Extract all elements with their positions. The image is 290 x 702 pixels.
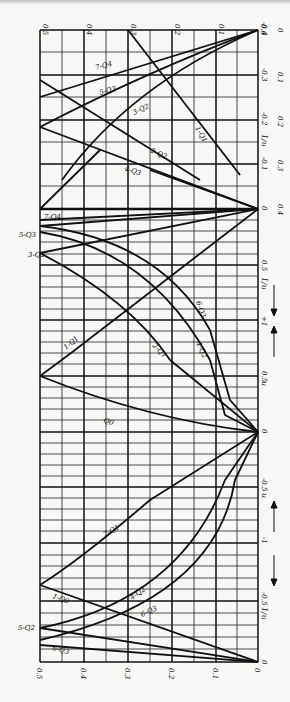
svg-text:5-Q3: 5-Q3 [19, 231, 37, 239]
curve-fan-2 [40, 150, 100, 209]
curve-1-Q1-mid [40, 209, 258, 376]
svg-text:2-Q1: 2-Q1 [101, 523, 121, 539]
curve-2-Q2-top [40, 80, 200, 180]
svg-text:7-Q4: 7-Q4 [44, 213, 61, 221]
curve-2-Q1-mid [40, 253, 170, 360]
svg-text:0.1: 0.1 [276, 72, 284, 83]
rotated-line-chart: 7-Q4 5-Q3 3-Q2 1-Q1 2-Q2 4-Q3 7-Q4 5-Q3 … [0, 0, 290, 702]
curve-2-Q1-cont [170, 360, 258, 432]
curves-lower [40, 432, 258, 662]
right-tick-labels: -0.4 -0.3 -0.2 -0.1 0 0.5 +1 0.5 0 -0.5 … [260, 22, 268, 665]
svg-text:0.2: 0.2 [167, 668, 175, 680]
svg-text:5-Q3: 5-Q3 [98, 85, 117, 97]
svg-text:-0.2: -0.2 [260, 112, 268, 126]
svg-text:u: u [260, 493, 269, 498]
svg-text:2-Q2: 2-Q2 [148, 146, 168, 161]
svg-text:7-Q4: 7-Q4 [94, 60, 113, 72]
svg-text:6-Q3: 6-Q3 [51, 644, 70, 656]
svg-text:2-Q1: 2-Q1 [150, 341, 168, 359]
svg-text:Q0: Q0 [102, 416, 115, 427]
svg-text:1/u: 1/u [260, 134, 269, 147]
svg-text:0.4: 0.4 [276, 204, 284, 215]
curve-4-Q2-cont [210, 360, 258, 432]
svg-text:5-Q2: 5-Q2 [18, 624, 36, 632]
bottom-tick-labels: 0.5 0.4 0.3 0.2 0.1 0 [35, 668, 261, 680]
svg-text:3-Q2: 3-Q2 [28, 251, 46, 259]
curve-fan-1 [150, 170, 258, 209]
svg-text:0: 0 [260, 660, 268, 665]
svg-text:-0.4: -0.4 [260, 22, 268, 36]
svg-text:6-Q3: 6-Q3 [139, 604, 158, 619]
curve-1-Q0-low [40, 585, 258, 662]
curve-5-Q2-low [40, 628, 258, 662]
svg-text:0: 0 [253, 668, 261, 673]
svg-text:-0.1: -0.1 [260, 157, 268, 171]
svg-text:-0.5: -0.5 [260, 592, 268, 606]
svg-text:0.1: 0.1 [211, 668, 219, 679]
direction-arrows [271, 285, 277, 586]
svg-text:0.3: 0.3 [123, 668, 131, 680]
svg-text:0.4: 0.4 [79, 668, 87, 679]
svg-text:-0.5: -0.5 [260, 478, 268, 492]
curve-labels: 7-Q4 5-Q3 3-Q2 1-Q1 2-Q2 4-Q3 7-Q4 5-Q3 … [18, 60, 209, 657]
svg-text:0.3: 0.3 [276, 160, 284, 172]
scanned-chart-page: 7-Q4 5-Q3 3-Q2 1-Q1 2-Q2 4-Q3 7-Q4 5-Q3 … [0, 0, 290, 702]
svg-text:0.2: 0.2 [173, 24, 181, 36]
svg-text:-0.3: -0.3 [260, 68, 268, 82]
curve-4-Q2-mid [40, 232, 210, 360]
svg-text:1-Q1: 1-Q1 [193, 125, 208, 144]
curve-7-Q4-top [40, 30, 258, 97]
svg-text:0.4: 0.4 [85, 24, 93, 35]
svg-text:1/u: 1/u [260, 277, 269, 290]
svg-text:0.2: 0.2 [276, 116, 284, 128]
svg-text:u: u [260, 381, 269, 386]
svg-text:0.5: 0.5 [260, 260, 268, 272]
svg-text:0: 0 [260, 206, 268, 211]
svg-text:0.1: 0.1 [217, 24, 225, 35]
svg-text:1/u: 1/u [260, 607, 269, 620]
svg-text:0: 0 [260, 429, 268, 434]
svg-text:4-Q3: 4-Q3 [122, 164, 142, 178]
svg-text:0: 0 [276, 28, 284, 33]
svg-text:4-Q2: 4-Q2 [194, 340, 209, 360]
curve-2-Q1-low [40, 432, 258, 585]
svg-text:0.3: 0.3 [129, 24, 137, 36]
right-outer-labels: 0 0.1 0.2 0.3 0.4 [276, 28, 284, 215]
curve-6-Q3-bottom [40, 645, 258, 662]
svg-text:4-Q2: 4-Q2 [128, 585, 148, 602]
svg-text:0.5: 0.5 [35, 668, 43, 680]
svg-text:0.5: 0.5 [41, 24, 49, 36]
svg-text:-1: -1 [260, 537, 268, 544]
curve-6-Q3-cont [210, 330, 258, 432]
svg-text:+1: +1 [260, 316, 268, 326]
